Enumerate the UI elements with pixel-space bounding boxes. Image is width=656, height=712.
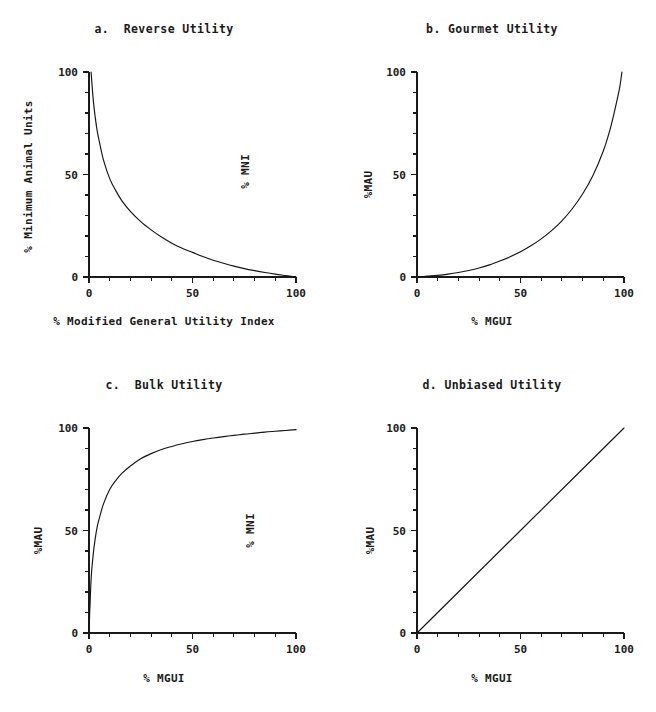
panel-c-curve: [89, 430, 296, 633]
panel-d-ytick-0: 0: [399, 627, 406, 640]
panel-b-ylabel: %MAU: [362, 155, 375, 215]
panel-b-xtick-0: 0: [414, 287, 421, 300]
panel-d-tick-labels: 050100050100: [386, 422, 634, 656]
panel-b: b. Gourmet Utility 050100050100 %MAU % M…: [328, 0, 656, 356]
panel-a-xtick-2: 100: [286, 287, 306, 300]
panel-d-plot: 050100050100: [328, 356, 656, 712]
panel-a-right-label: % MNI: [239, 127, 252, 217]
panel-a-curve: [91, 72, 296, 277]
panel-b-xlabel: % MGUI: [328, 315, 656, 328]
panel-b-ytick-0: 0: [399, 271, 406, 284]
panel-c-xtick-0: 0: [86, 643, 93, 656]
panel-a-ytick-2: 100: [58, 66, 78, 79]
panel-d-ytick-1: 50: [393, 525, 406, 538]
panel-d-xtick-0: 0: [414, 643, 421, 656]
panel-d-ylabel: %MAU: [364, 511, 377, 571]
panel-c-ylabel: %MAU: [32, 511, 45, 571]
panel-d-curve: [417, 428, 624, 633]
panel-b-xtick-2: 100: [614, 287, 634, 300]
panel-c-xtick-1: 50: [186, 643, 199, 656]
panel-c-ytick-2: 100: [58, 422, 78, 435]
panel-d-xtick-1: 50: [514, 643, 527, 656]
panel-a-ylabel: % Minimum Animal Units: [22, 77, 35, 277]
figure-root: a. Reverse Utility 050100050100 % Minimu…: [0, 0, 656, 712]
panel-c-xtick-2: 100: [286, 643, 306, 656]
panel-d-xtick-2: 100: [614, 643, 634, 656]
panel-d-ytick-2: 100: [386, 422, 406, 435]
panel-b-ytick-2: 100: [386, 66, 406, 79]
panel-d: d. Unbiased Utility 050100050100 %MAU % …: [328, 356, 656, 712]
panel-b-ytick-1: 50: [393, 169, 406, 182]
panel-c-plot: 050100050100: [0, 356, 328, 712]
panel-c-axes: [89, 428, 296, 633]
panel-b-plot: 050100050100: [328, 0, 656, 356]
panel-c: c. Bulk Utility 050100050100 %MAU % MNI …: [0, 356, 328, 712]
panel-c-ytick-0: 0: [71, 627, 78, 640]
panel-b-curve: [417, 72, 622, 277]
panel-c-ticks: [83, 428, 296, 639]
panel-a-ytick-1: 50: [65, 169, 78, 182]
panel-c-xlabel: % MGUI: [0, 672, 328, 685]
panel-b-tick-labels: 050100050100: [386, 66, 634, 300]
panel-a: a. Reverse Utility 050100050100 % Minimu…: [0, 0, 328, 356]
panel-b-xtick-1: 50: [514, 287, 527, 300]
panel-a-xtick-0: 0: [86, 287, 93, 300]
panel-d-xlabel: % MGUI: [328, 672, 656, 685]
panel-a-xtick-1: 50: [186, 287, 199, 300]
panel-a-ytick-0: 0: [71, 271, 78, 284]
panel-a-plot: 050100050100: [0, 0, 328, 356]
panel-c-right-label: % MNI: [244, 486, 257, 576]
panel-a-axes: [89, 72, 296, 277]
panel-c-ytick-1: 50: [65, 525, 78, 538]
panel-a-tick-labels: 050100050100: [58, 66, 306, 300]
panel-a-xlabel: % Modified General Utility Index: [0, 315, 328, 328]
